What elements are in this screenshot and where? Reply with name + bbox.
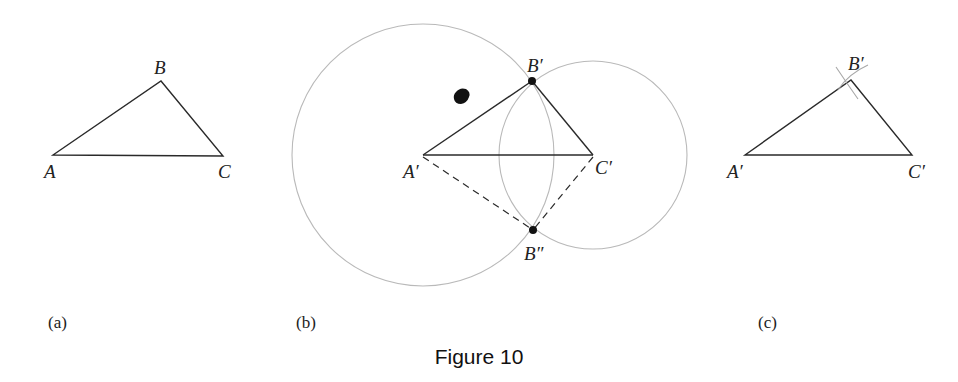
panel-b: A′ B′ B″ C′ (b) — [292, 24, 687, 332]
dashed-segment-a-prime-b-double-prime — [423, 157, 533, 230]
point-b-double-prime — [529, 226, 537, 234]
figure-caption: Figure 10 — [435, 345, 524, 368]
vertex-label-b-double-prime: B″ — [524, 243, 545, 264]
panel-label-a: (a) — [48, 313, 67, 332]
panel-c: A′ B′ C′ (c) — [725, 53, 926, 332]
figure-10: A B C (a) A′ B′ B″ C′ (b) A′ B′ C′ (c) F… — [0, 0, 958, 382]
vertex-label-b-prime: B′ — [527, 55, 544, 76]
panel-label-c: (c) — [758, 313, 777, 332]
vertex-label-c: C — [218, 161, 231, 182]
vertex-label-a: A — [42, 161, 56, 182]
vertex-label-c-prime: C′ — [595, 157, 613, 178]
segment-a-prime-b-prime — [423, 81, 532, 155]
point-b-prime — [528, 77, 536, 85]
dashed-segment-c-prime-b-double-prime — [533, 157, 593, 230]
vertex-label-a-prime-c: A′ — [725, 161, 744, 182]
triangle-abc — [53, 81, 223, 156]
panel-a: A B C (a) — [42, 57, 231, 332]
panel-label-b: (b) — [296, 313, 316, 332]
triangle-a-prime-b-prime-c-prime — [745, 80, 912, 155]
vertex-label-b-prime-c: B′ — [848, 53, 865, 74]
figure-canvas: A B C (a) A′ B′ B″ C′ (b) A′ B′ C′ (c) F… — [0, 0, 958, 382]
segment-b-prime-c-prime — [532, 81, 593, 155]
vertex-label-b: B — [154, 57, 166, 78]
ink-smudge — [454, 88, 470, 104]
vertex-label-c-prime-c: C′ — [908, 161, 926, 182]
vertex-label-a-prime: A′ — [401, 161, 420, 182]
